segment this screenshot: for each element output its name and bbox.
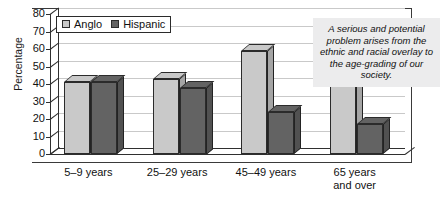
x-tick-label-line: 25–29 years bbox=[133, 166, 222, 179]
bar-side-face bbox=[294, 106, 301, 154]
bar-chart-figure: Percentage 80706050403020100 AngloHispan… bbox=[0, 0, 445, 200]
legend-entry-anglo: Anglo bbox=[62, 18, 102, 30]
y-tick-label: 20 bbox=[19, 112, 50, 124]
x-tick-label: 5–9 years bbox=[44, 166, 133, 179]
bar-front-face bbox=[64, 82, 90, 154]
bar-hispanic-2 bbox=[268, 112, 294, 154]
legend-entry-hispanic: Hispanic bbox=[111, 18, 165, 30]
bar-side-face bbox=[117, 76, 124, 154]
x-axis-labels: 5–9 years25–29 years45–49 years65 yearsa… bbox=[50, 166, 405, 198]
y-tick-label: 80 bbox=[19, 7, 50, 19]
bar-hispanic-0 bbox=[91, 82, 117, 154]
x-tick-label-line: 45–49 years bbox=[222, 166, 311, 179]
y-tick-label: 0 bbox=[19, 147, 50, 159]
bar-front-face bbox=[357, 124, 383, 154]
x-tick-label: 65 yearsand over bbox=[310, 166, 399, 192]
bar-side-face bbox=[383, 118, 390, 154]
bar-hispanic-3 bbox=[357, 124, 383, 154]
floor-edge-right bbox=[405, 147, 415, 155]
x-tick-label: 45–49 years bbox=[222, 166, 311, 179]
chart-legend: AngloHispanic bbox=[56, 16, 171, 33]
bar-hispanic-1 bbox=[180, 88, 206, 155]
bar-anglo-0 bbox=[64, 82, 90, 154]
bar-anglo-1 bbox=[153, 79, 179, 154]
y-tick-label: 70 bbox=[19, 25, 50, 37]
gridline bbox=[58, 8, 405, 9]
y-tick-label: 50 bbox=[19, 60, 50, 72]
y-tick-label: 40 bbox=[19, 77, 50, 89]
x-tick-label: 25–29 years bbox=[133, 166, 222, 179]
bar-front-face bbox=[241, 51, 267, 154]
bar-front-face bbox=[91, 82, 117, 154]
y-tick-label: 60 bbox=[19, 42, 50, 54]
bar-front-face bbox=[268, 112, 294, 154]
legend-label: Anglo bbox=[74, 18, 102, 30]
bar-anglo-2 bbox=[241, 51, 267, 154]
x-axis-line bbox=[50, 154, 405, 155]
callout-note: A serious and potential problem arises f… bbox=[313, 18, 440, 87]
x-tick-label-line: and over bbox=[310, 179, 399, 192]
x-tick-label-line: 5–9 years bbox=[44, 166, 133, 179]
figure-frame-bottom bbox=[32, 162, 412, 163]
x-tick-label-line: 65 years bbox=[310, 166, 399, 179]
bar-front-face bbox=[153, 79, 179, 154]
legend-swatch-hispanic bbox=[111, 20, 119, 28]
y-tick-label: 30 bbox=[19, 95, 50, 107]
bar-side-face bbox=[206, 82, 213, 154]
legend-label: Hispanic bbox=[123, 18, 165, 30]
y-tick-label: 10 bbox=[19, 130, 50, 142]
legend-swatch-anglo bbox=[62, 20, 70, 28]
bar-front-face bbox=[180, 88, 206, 155]
